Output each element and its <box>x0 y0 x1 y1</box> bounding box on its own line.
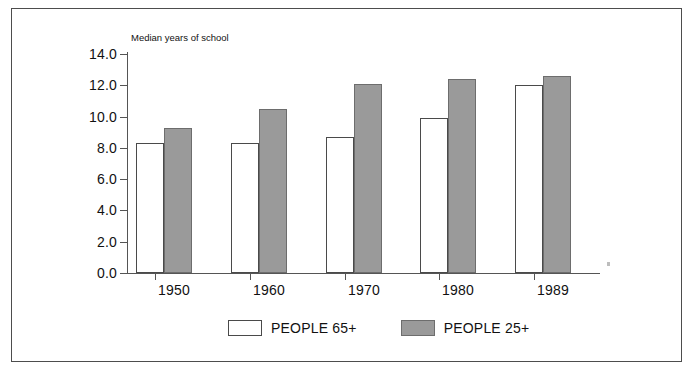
x-axis-tick-mark <box>439 274 440 280</box>
chart-legend: PEOPLE 65+PEOPLE 25+ <box>228 320 529 336</box>
bar-1960-series1 <box>259 109 287 273</box>
y-axis-tick-label: 12.0 <box>57 78 117 92</box>
x-axis-tick-mark <box>534 274 535 280</box>
y-axis-tick-mark <box>120 148 127 149</box>
y-axis-tick-label: 4.0 <box>57 203 117 217</box>
bar-1960-series0 <box>231 143 259 273</box>
y-axis-tick-label: 10.0 <box>57 110 117 124</box>
legend-item-0: PEOPLE 65+ <box>228 320 357 336</box>
x-axis-tick-mark <box>250 274 251 280</box>
x-axis-tick-mark <box>345 274 346 280</box>
bar-1950-series1 <box>164 128 192 273</box>
legend-label: PEOPLE 65+ <box>271 320 357 336</box>
y-axis-tick-label: 8.0 <box>57 141 117 155</box>
legend-item-1: PEOPLE 25+ <box>401 320 530 336</box>
bar-1970-series0 <box>326 137 354 273</box>
x-axis-tick-mark <box>155 274 156 280</box>
legend-label: PEOPLE 25+ <box>444 320 530 336</box>
y-axis-tick-mark <box>120 242 127 243</box>
bar-1989-series1 <box>543 76 571 273</box>
y-axis-tick-label: 6.0 <box>57 172 117 186</box>
x-axis-tick-label: 1970 <box>319 282 409 298</box>
bar-1980-series1 <box>448 79 476 273</box>
y-axis-tick-label: 0.0 <box>57 266 117 280</box>
bar-1989-series0 <box>515 85 543 273</box>
y-axis-tick-mark <box>120 54 127 55</box>
y-axis-tick-mark <box>120 273 127 274</box>
y-axis-line <box>127 52 128 274</box>
x-axis-tick-label: 1950 <box>129 282 219 298</box>
bar-1950-series0 <box>136 143 164 273</box>
x-axis-tick-label: 1989 <box>508 282 598 298</box>
white-swatch <box>228 320 262 336</box>
bar-1970-series1 <box>354 84 382 273</box>
bar-1980-series0 <box>420 118 448 273</box>
y-axis-tick-mark <box>120 85 127 86</box>
bar-chart-figure: Median years of school 14.012.010.08.06.… <box>0 0 690 371</box>
x-axis-tick-label: 1980 <box>413 282 503 298</box>
y-axis-tick-label: 2.0 <box>57 235 117 249</box>
y-axis-tick-label: 14.0 <box>57 47 117 61</box>
x-axis-line <box>127 273 600 274</box>
y-axis-tick-mark <box>120 179 127 180</box>
x-axis-tick-label: 1960 <box>224 282 314 298</box>
y-axis-tick-mark <box>120 117 127 118</box>
scan-artifact-speck <box>607 262 610 266</box>
gray-swatch <box>401 320 435 336</box>
y-axis-tick-mark <box>120 210 127 211</box>
y-axis-title: Median years of school <box>131 32 229 43</box>
